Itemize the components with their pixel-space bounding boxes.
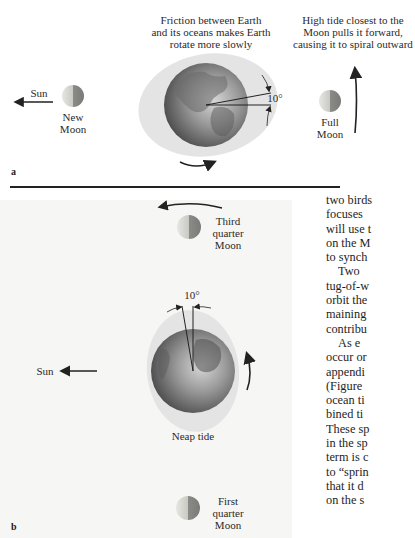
label-line: Moon [55, 123, 91, 135]
body-line: These sp [326, 422, 415, 436]
body-line: focuses [326, 207, 415, 221]
first-quarter-moon-icon [176, 496, 200, 520]
body-line: to “sprin [326, 465, 415, 479]
caption-line: causing it to spiral outward [288, 38, 415, 50]
label-line: Moon [208, 519, 248, 531]
caption-line: and its oceans makes Earth [136, 26, 286, 38]
sun-label-b: Sun [30, 365, 60, 377]
label-line: Full [312, 116, 348, 128]
body-line: bined ti [326, 407, 415, 421]
body-line: term is c [326, 450, 415, 464]
panel-a-letter: a [11, 166, 16, 177]
high-tide-caption: High tide closest to the Moon pulls it f… [288, 14, 415, 50]
panel-divider [10, 186, 340, 188]
panel-b-letter: b [11, 521, 17, 532]
label-line: quarter [208, 227, 248, 239]
body-line: two birds [326, 193, 415, 207]
label-line: Third [208, 215, 248, 227]
neap-tide-label: Neap tide [163, 430, 223, 442]
new-moon-icon [62, 85, 84, 107]
body-line: contribu [326, 322, 415, 336]
third-quarter-label: Third quarter Moon [208, 215, 248, 251]
body-line: Two [326, 264, 415, 278]
angle-label-b: 10° [178, 289, 206, 301]
body-line: that it d [326, 479, 415, 493]
body-line: on the M [326, 236, 415, 250]
sun-label-a: Sun [24, 87, 54, 99]
body-line: As e [326, 336, 415, 350]
friction-caption: Friction between Earth and its oceans ma… [136, 14, 286, 50]
body-text-column: two birds focuses will use t on the M to… [326, 193, 415, 508]
caption-line: Moon pulls it forward, [288, 26, 415, 38]
caption-line: High tide closest to the [288, 14, 415, 26]
caption-line: Friction between Earth [136, 14, 286, 26]
body-line: (Figure [326, 379, 415, 393]
label-line: New [55, 111, 91, 123]
body-line: orbit the [326, 293, 415, 307]
new-moon-label: New Moon [55, 111, 91, 135]
body-line: appendi [326, 365, 415, 379]
body-line: to synch [326, 250, 415, 264]
label-line: quarter [208, 507, 248, 519]
full-moon-icon [319, 90, 341, 112]
body-line: tug-of-w [326, 279, 415, 293]
third-quarter-moon-icon [177, 215, 201, 239]
first-quarter-label: First quarter Moon [208, 495, 248, 531]
label-line: First [208, 495, 248, 507]
label-line: Moon [208, 239, 248, 251]
body-line: will use t [326, 222, 415, 236]
body-line: ocean ti [326, 393, 415, 407]
angle-label-a: 10° [263, 92, 287, 104]
body-line: maining [326, 307, 415, 321]
body-line: in the sp [326, 436, 415, 450]
caption-line: rotate more slowly [136, 38, 286, 50]
body-line: occur or [326, 350, 415, 364]
full-moon-label: Full Moon [312, 116, 348, 140]
body-line: on the s [326, 493, 415, 507]
label-line: Moon [312, 128, 348, 140]
